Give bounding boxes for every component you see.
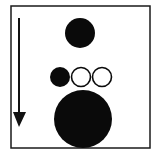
open-circle-small-open-2	[93, 68, 112, 87]
arrow-head	[13, 112, 26, 127]
down-arrow-icon	[13, 18, 26, 127]
open-circle-small-open-1	[72, 68, 91, 87]
diagram-canvas	[0, 0, 156, 157]
filled-circle-large-filled	[54, 90, 112, 148]
filled-circle-top-filled	[65, 18, 95, 48]
filled-circle-small-filled	[50, 67, 70, 87]
circle-group	[50, 18, 112, 148]
